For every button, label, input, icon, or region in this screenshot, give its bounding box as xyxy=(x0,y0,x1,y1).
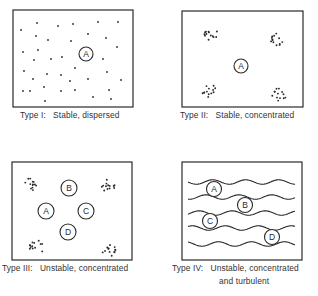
source-circle-a: A xyxy=(234,59,248,73)
particle-dot xyxy=(32,189,34,191)
particle-dot xyxy=(102,58,104,60)
particle-dot xyxy=(92,96,94,98)
particle-dot xyxy=(29,90,31,92)
particle-dot xyxy=(74,89,76,91)
particle-dot xyxy=(106,179,108,181)
caption-type-4-line-1: Type IV: Unstable, concentrated xyxy=(172,263,299,273)
particle-dot xyxy=(102,251,104,253)
particle-dot xyxy=(32,241,34,243)
particle-dot xyxy=(105,37,107,39)
particle-dot xyxy=(204,31,206,33)
particle-dot xyxy=(208,88,210,90)
particle-dot xyxy=(283,97,285,99)
particle-dot xyxy=(101,186,103,188)
particle-dot xyxy=(105,185,107,187)
particle-dot xyxy=(206,91,208,93)
particle-dot xyxy=(279,97,281,99)
particle-dot xyxy=(113,185,115,187)
particle-dot xyxy=(281,91,283,93)
particle-dot xyxy=(213,85,215,87)
source-label: A xyxy=(211,184,217,194)
source-circle-b: B xyxy=(238,198,253,213)
particle-dot xyxy=(57,25,59,27)
particle-dot xyxy=(208,93,210,95)
particle-dot xyxy=(36,22,38,24)
source-label: C xyxy=(83,206,89,216)
particle-dot xyxy=(109,187,111,189)
particle-dot xyxy=(114,251,116,253)
panel-type-3-unstable-concentrated: BACD xyxy=(12,162,132,260)
particle-dot xyxy=(20,29,22,31)
particle-dot xyxy=(32,184,34,186)
particle-dot xyxy=(279,43,281,45)
particle-dot xyxy=(30,246,32,248)
particle-dot xyxy=(283,93,285,95)
particle-dot xyxy=(271,35,273,37)
particle-dot xyxy=(60,74,62,76)
source-circle-a: A xyxy=(38,203,54,219)
particle-dot xyxy=(277,93,279,95)
source-label: D xyxy=(65,227,71,237)
particle-dot xyxy=(33,59,35,61)
particle-dot xyxy=(61,56,63,58)
particle-dot xyxy=(23,70,25,72)
particle-cluster xyxy=(202,85,216,98)
particle-dot xyxy=(107,188,109,190)
particle-dot xyxy=(22,51,24,53)
turbulence-wave-line xyxy=(188,180,295,184)
particle-cluster xyxy=(29,240,43,253)
particle-dot xyxy=(43,86,45,88)
source-circle-c: C xyxy=(78,203,94,219)
particle-dot xyxy=(208,31,210,33)
particle-dot xyxy=(213,91,215,93)
particle-dot xyxy=(207,96,209,98)
particle-cluster xyxy=(102,244,117,257)
particle-dot xyxy=(271,39,273,41)
source-circle-c: C xyxy=(203,214,218,229)
particle-dot xyxy=(72,23,74,25)
source-label: A xyxy=(83,49,89,59)
particle-dot xyxy=(35,185,37,187)
particle-dot xyxy=(120,79,122,81)
particle-dot xyxy=(22,90,24,92)
source-circle-b: B xyxy=(61,180,77,196)
particle-dot xyxy=(113,187,115,189)
particle-dot xyxy=(272,41,274,43)
particle-dot xyxy=(29,178,31,180)
particle-dot xyxy=(208,39,210,41)
source-label: A xyxy=(43,206,49,216)
particle-dot xyxy=(274,91,276,93)
particle-dot xyxy=(44,100,46,102)
particle-dot xyxy=(214,87,216,89)
particle-dot xyxy=(110,98,112,100)
particle-dot xyxy=(32,187,34,189)
particle-dot xyxy=(47,39,49,41)
particle-dot xyxy=(34,247,36,249)
particle-dot xyxy=(108,248,110,250)
particle-dot xyxy=(215,36,217,38)
panel-type-4-unstable-turbulent: ABCD xyxy=(182,162,302,260)
particle-dot xyxy=(74,67,76,69)
caption-type-1: Type I: Stable, dispersed xyxy=(20,110,120,120)
particle-dot xyxy=(40,243,42,245)
particle-dot xyxy=(46,73,48,75)
particle-dot xyxy=(106,71,108,73)
particle-dot xyxy=(271,95,273,97)
particle-dot xyxy=(105,183,107,185)
particle-dot xyxy=(114,249,116,251)
panel-type-1-stable-dispersed: A xyxy=(13,10,133,107)
particle-dot xyxy=(27,178,29,180)
particle-dot xyxy=(204,35,206,37)
particle-dot xyxy=(116,46,118,48)
source-circle-d: D xyxy=(265,230,280,245)
particle-dot xyxy=(206,85,208,87)
particle-dot xyxy=(35,35,37,37)
particle-dot xyxy=(41,250,43,252)
caption-type-3: Type III: Unstable, concentrated xyxy=(2,263,128,273)
source-circle-a: A xyxy=(79,47,93,61)
particle-dot xyxy=(210,92,212,94)
particle-dot xyxy=(87,78,89,80)
particle-dot xyxy=(103,190,105,192)
particle-dot xyxy=(70,40,72,42)
particle-dot xyxy=(104,250,106,252)
